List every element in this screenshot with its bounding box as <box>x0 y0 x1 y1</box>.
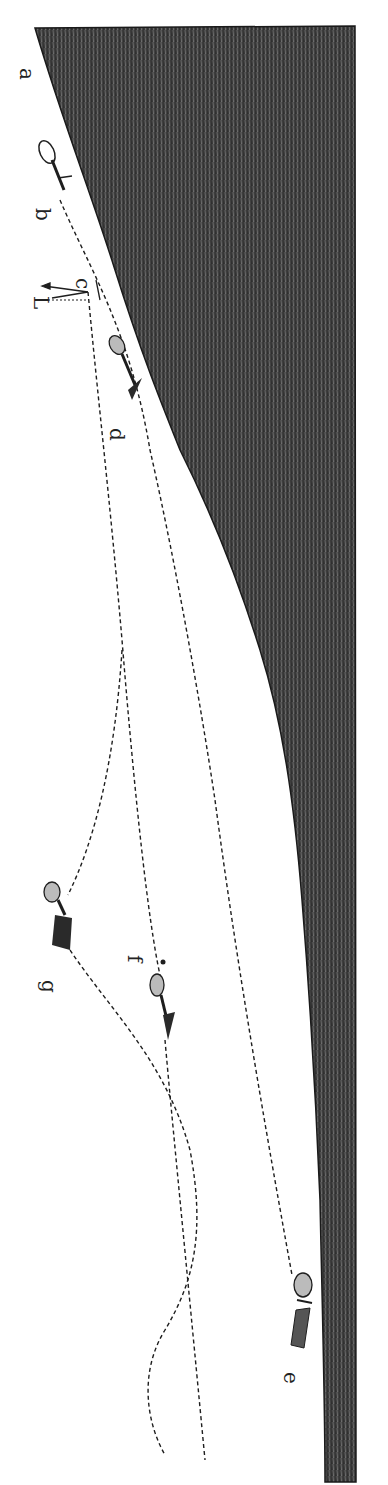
label-d: d <box>105 428 129 441</box>
seed-g <box>44 882 72 950</box>
flight-path-c-f <box>88 292 205 1460</box>
seed-f <box>150 974 175 1040</box>
label-L: L <box>29 296 53 309</box>
seed-e <box>291 1273 312 1348</box>
point-f <box>161 960 166 965</box>
flight-path-g <box>68 650 197 1455</box>
label-g: g <box>37 980 61 993</box>
label-f: f <box>123 955 147 964</box>
label-a: a <box>15 68 39 80</box>
ground-region <box>35 26 356 1482</box>
label-e: e <box>279 1372 303 1384</box>
label-c: c <box>71 278 95 289</box>
label-b: b <box>31 208 55 221</box>
seed-flight-diagram: a b c L d g f e <box>0 0 388 1485</box>
seed-b <box>36 138 72 190</box>
